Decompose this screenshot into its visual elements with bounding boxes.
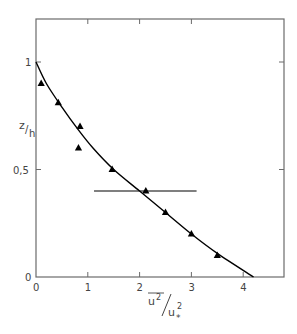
x-axis-label: u 2 u 2 * (148, 293, 182, 323)
x-label-numerator-sup: 2 (156, 293, 161, 302)
triangle-marker-icon (55, 99, 62, 106)
triangle-marker-icon (75, 144, 82, 151)
triangle-marker-icon (188, 230, 195, 237)
x-tick-label: 4 (240, 282, 246, 293)
tick-labels: 0123400,51 (13, 57, 247, 293)
triangle-marker-icon (38, 80, 45, 87)
axis-ticks (36, 19, 284, 277)
triangle-marker-icon (162, 209, 169, 216)
y-label-bottom: h (29, 128, 35, 139)
x-label-denominator-sup: 2 (177, 302, 182, 311)
chart: 0123400,51 z / h u 2 u 2 * (0, 0, 297, 334)
x-label-numerator: u (148, 295, 155, 308)
y-tick-label: 0 (25, 272, 31, 283)
y-axis-label: z / h (19, 119, 35, 139)
x-tick-label: 0 (33, 282, 39, 293)
x-tick-label: 2 (137, 282, 143, 293)
fitted-curve (36, 62, 254, 277)
triangle-marker-icon (76, 123, 83, 130)
x-tick-label: 1 (85, 282, 91, 293)
y-tick-label: 0,5 (13, 165, 29, 176)
x-label-denominator-sub: * (176, 313, 181, 323)
x-label-denominator: u (168, 306, 175, 319)
triangle-marker-icon (142, 187, 149, 194)
y-tick-label: 1 (25, 57, 31, 68)
x-tick-label: 3 (188, 282, 194, 293)
plot-frame (36, 19, 284, 277)
data-markers (38, 80, 221, 259)
